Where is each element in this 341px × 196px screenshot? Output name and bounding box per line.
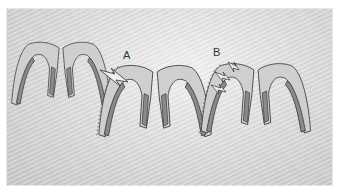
panel-a: A — [97, 49, 211, 137]
structure-b — [199, 64, 310, 133]
panel-b: B — [199, 46, 310, 133]
original-structure — [12, 42, 111, 105]
panel-b-label: B — [213, 46, 220, 58]
panel-a-label: A — [123, 49, 131, 61]
diagram-canvas: A B — [0, 0, 341, 196]
